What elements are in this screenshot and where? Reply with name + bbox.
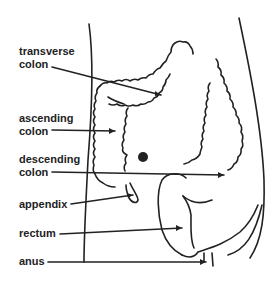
ascending-colon [93, 86, 115, 187]
label-descending-colon: descending colon [19, 153, 80, 179]
leader-transverse [52, 67, 161, 95]
lesion-dot [138, 152, 148, 162]
label-rectum: rectum [19, 227, 56, 240]
anus [204, 253, 213, 266]
body-outline-left [84, 24, 92, 262]
label-appendix: appendix [19, 198, 67, 211]
label-transverse-colon: transverse colon [19, 45, 75, 71]
label-ascending-colon: ascending colon [19, 112, 73, 138]
transverse-colon [100, 41, 193, 86]
colon-diagram [0, 0, 277, 283]
descending-colon [216, 59, 243, 170]
appendix [126, 183, 138, 202]
rectum [158, 174, 186, 255]
leader-appendix [71, 195, 133, 204]
label-anus: anus [19, 255, 45, 268]
